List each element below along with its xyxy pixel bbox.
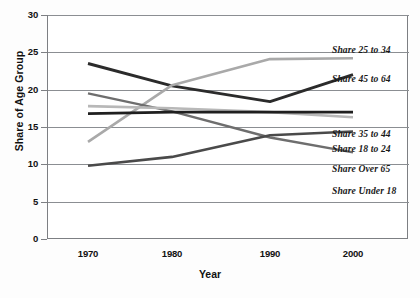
series-label: Share Over 65	[332, 163, 390, 174]
data-line	[88, 58, 353, 142]
series-label: Share Under 18	[332, 185, 396, 196]
chart-container: 051015202530 1970198019902000 Share of A…	[0, 0, 420, 298]
data-line	[88, 112, 353, 114]
data-line	[88, 64, 353, 102]
series-label: Share 25 to 34	[332, 44, 391, 55]
data-line	[88, 93, 353, 152]
series-label: Share 35 to 44	[332, 128, 391, 139]
series-label: Share 45 to 64	[332, 73, 391, 84]
series-label: Share 18 to 24	[332, 143, 391, 154]
data-line	[88, 132, 353, 166]
